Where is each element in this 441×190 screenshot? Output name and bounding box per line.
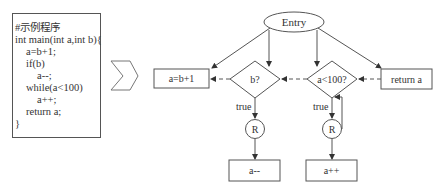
dec-label: a--: [249, 165, 260, 176]
return-node: return a: [381, 69, 432, 89]
entry-node: Entry: [264, 12, 324, 32]
edge-entry-return: [318, 28, 381, 68]
r-right-node: R: [323, 120, 342, 139]
edge-label-a-true: true: [313, 101, 329, 112]
cond-a-label: a<100?: [317, 74, 347, 85]
chevron-right-icon: [111, 61, 138, 90]
return-label: return a: [391, 74, 422, 85]
cond-b-label: b?: [250, 74, 260, 85]
edge-label-b-true: true: [236, 101, 252, 112]
entry-label: Entry: [282, 16, 307, 28]
cond-a-node: a<100?: [307, 61, 357, 98]
dec-node: a--: [229, 160, 280, 181]
control-flow-graph: Entry a=b+1 b? a<100? return a true R a-…: [0, 0, 441, 190]
r-left-label: R: [252, 124, 259, 135]
r-left-node: R: [246, 120, 265, 139]
edge-entry-assign: [212, 28, 270, 68]
r-right-label: R: [329, 124, 336, 135]
assign-label: a=b+1: [169, 73, 195, 84]
assign-node: a=b+1: [154, 69, 209, 88]
inc-node: a++: [306, 160, 357, 181]
cond-b-node: b?: [230, 61, 280, 98]
inc-label: a++: [324, 165, 340, 176]
